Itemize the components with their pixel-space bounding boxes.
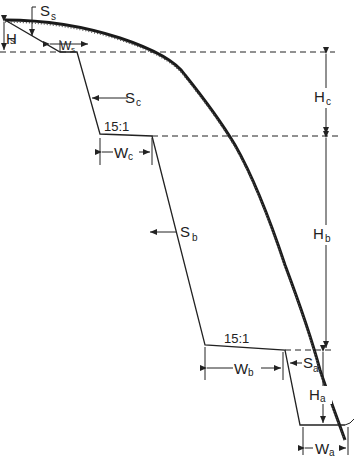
svg-text:H: H <box>309 386 320 403</box>
svg-text:S: S <box>125 89 135 106</box>
label-Sb: S b <box>180 223 198 243</box>
height-dimension-lines <box>4 22 326 423</box>
svg-text:H: H <box>314 88 325 105</box>
svg-text:c: c <box>136 97 141 108</box>
ground-surface <box>5 20 345 442</box>
svg-text:b: b <box>192 232 198 243</box>
slope-bench-diagram: S s H s W s S c H c W c 15:1 S b H b 15:… <box>0 0 359 468</box>
svg-text:s: s <box>51 11 56 22</box>
width-dimension-lines <box>50 40 348 455</box>
label-bench-b-slope: 15:1 <box>224 331 249 346</box>
label-Ha: H a <box>308 386 332 404</box>
svg-text:b: b <box>248 367 254 378</box>
svg-text:s: s <box>10 35 15 46</box>
label-bench-c-slope: 15:1 <box>104 119 129 134</box>
svg-text:a: a <box>313 363 319 374</box>
level-lines <box>0 52 340 350</box>
label-Sc: S c <box>125 89 141 108</box>
label-Hb: H b <box>312 225 340 245</box>
svg-text:S: S <box>40 2 50 19</box>
label-Wc: W c <box>113 143 139 162</box>
svg-text:15:1: 15:1 <box>104 119 129 134</box>
svg-text:a: a <box>320 393 326 404</box>
svg-text:H: H <box>313 225 324 242</box>
label-Wa: W a <box>313 439 339 458</box>
diagram-canvas: S s H s W s S c H c W c 15:1 S b H b 15:… <box>0 0 359 468</box>
label-Hs: H s <box>6 30 17 47</box>
label-Wb: W b <box>233 359 261 378</box>
svg-text:s: s <box>71 45 75 54</box>
svg-text:S: S <box>180 223 190 240</box>
svg-text:W: W <box>315 440 330 457</box>
svg-text:S: S <box>303 354 313 371</box>
label-Ss: S s <box>40 2 56 22</box>
svg-text:b: b <box>325 233 331 244</box>
label-Ws: W s <box>60 39 75 54</box>
svg-text:15:1: 15:1 <box>224 331 249 346</box>
label-Hc: H c <box>314 88 342 108</box>
svg-text:a: a <box>329 447 335 458</box>
svg-text:c: c <box>128 151 133 162</box>
svg-text:W: W <box>114 144 129 161</box>
svg-text:W: W <box>234 360 249 377</box>
svg-text:c: c <box>326 96 331 107</box>
